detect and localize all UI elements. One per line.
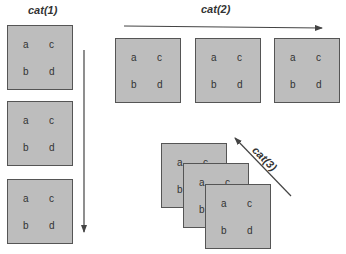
cell-b: b [177, 185, 183, 195]
cell-a: a [211, 53, 217, 63]
cell-a: a [221, 199, 227, 209]
cat1-box-2: a c b d [7, 101, 73, 166]
cell-b: b [131, 80, 137, 90]
cell-c: c [247, 199, 252, 209]
cell-c: c [316, 53, 321, 63]
cat2-box-3: a c b d [274, 38, 340, 103]
cell-c: c [49, 116, 54, 126]
cell-a: a [23, 116, 29, 126]
cell-c: c [157, 53, 162, 63]
cat3-box-3: a c b d [205, 184, 271, 249]
cat1-box-1: a c b d [7, 25, 73, 90]
cell-b: b [211, 80, 217, 90]
cell-b: b [23, 221, 29, 231]
cell-c: c [237, 53, 242, 63]
cell-b: b [23, 143, 29, 153]
cell-d: d [49, 221, 55, 231]
cell-b: b [290, 80, 296, 90]
cat3-label: cat(3) [250, 145, 279, 174]
cell-a: a [131, 53, 137, 63]
cell-d: d [157, 80, 163, 90]
cell-c: c [49, 40, 54, 50]
cell-a: a [290, 53, 296, 63]
cell-d: d [316, 80, 322, 90]
cell-d: d [237, 80, 243, 90]
cell-c: c [49, 194, 54, 204]
cell-b: b [221, 226, 227, 236]
cell-d: d [247, 226, 253, 236]
cat2-box-2: a c b d [195, 38, 261, 103]
cat1-box-3: a c b d [7, 179, 73, 244]
cell-a: a [23, 194, 29, 204]
cell-b: b [23, 67, 29, 77]
cat-dimensions-diagram: cat(1) cat(2) cat(3) a c b d a c b d a c… [0, 0, 346, 254]
cell-a: a [177, 158, 183, 168]
cell-d: d [49, 67, 55, 77]
cat2-arrow [124, 26, 322, 28]
cell-a: a [199, 178, 205, 188]
cat2-label: cat(2) [201, 4, 230, 15]
cell-a: a [23, 40, 29, 50]
cat1-label: cat(1) [28, 5, 57, 16]
cell-d: d [49, 143, 55, 153]
cell-b: b [199, 205, 205, 215]
cat2-box-1: a c b d [115, 38, 181, 103]
